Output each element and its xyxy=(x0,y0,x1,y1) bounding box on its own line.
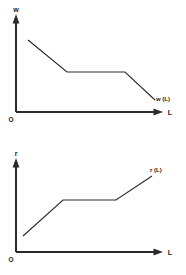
wage-x-axis-arrow-icon xyxy=(154,109,164,116)
wage-x-axis-label: L xyxy=(168,109,173,116)
rent-chart-svg: r L O r (L) xyxy=(0,137,186,275)
wage-function-figure: w L O w (L) xyxy=(0,0,186,137)
wage-curve xyxy=(28,40,155,100)
wage-curve-label: w (L) xyxy=(155,96,170,102)
rent-x-axis-label: L xyxy=(168,249,173,256)
wage-chart-svg: w L O w (L) xyxy=(0,0,186,137)
rent-y-axis-label: r xyxy=(15,150,18,157)
wage-origin-label: O xyxy=(8,116,13,123)
rent-curve xyxy=(23,176,152,236)
wage-y-axis-label: w xyxy=(12,6,19,13)
rent-origin-label: O xyxy=(8,256,13,263)
rent-function-figure: r L O r (L) xyxy=(0,137,186,275)
rent-curve-label: r (L) xyxy=(150,167,162,173)
rent-x-axis-arrow-icon xyxy=(154,249,164,256)
wage-y-axis-arrow-icon xyxy=(13,14,20,24)
rent-y-axis-arrow-icon xyxy=(13,158,20,168)
